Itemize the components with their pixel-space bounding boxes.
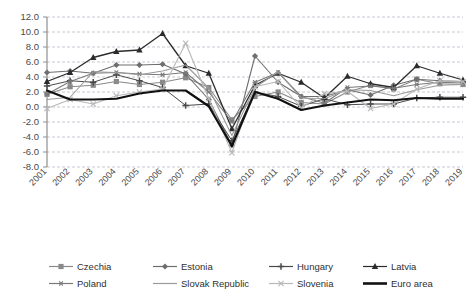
data-point-marker [414, 62, 420, 68]
x-axis-tick-label: 2007 [166, 166, 187, 187]
x-axis-tick-label: 2002 [50, 166, 71, 187]
data-point-marker [136, 62, 142, 68]
x-axis-tick-label: 2009 [212, 166, 233, 187]
x-axis-tick-label: 2005 [120, 166, 141, 187]
x-axis-tick-label: 2008 [189, 166, 210, 187]
y-axis-tick-label: 6.0 [26, 56, 39, 67]
legend-item-euro-area[interactable]: Euro area [362, 278, 466, 289]
y-axis-tick-label: 4.0 [26, 71, 39, 82]
chart-legend: CzechiaEstoniaHungaryLatviaPolandSlovak … [48, 258, 466, 292]
x-axis-tick-labels: 2001200220032004200520062007200820092010… [27, 166, 464, 187]
legend-x-icon [268, 278, 294, 289]
legend-item-slovenia[interactable]: Slovenia [268, 278, 362, 289]
x-axis-tick-label: 2011 [259, 166, 280, 187]
legend-item-czechia[interactable]: Czechia [48, 261, 152, 272]
legend-item-slovak-republic[interactable]: Slovak Republic [152, 278, 268, 289]
legend-item-poland[interactable]: Poland [48, 278, 152, 289]
legend-label: Hungary [297, 261, 333, 272]
data-point-marker [159, 30, 165, 36]
legend-none-icon [152, 278, 178, 289]
data-series-group [44, 30, 466, 155]
data-point-marker [344, 73, 350, 79]
legend-star-icon [48, 278, 74, 289]
data-point-marker [183, 41, 188, 46]
x-axis-tick-label: 2006 [143, 166, 164, 187]
legend-plus-icon [268, 261, 294, 272]
data-point-marker [229, 150, 234, 155]
data-point-marker [414, 82, 419, 86]
legend-item-latvia[interactable]: Latvia [362, 261, 466, 272]
x-axis-tick-label: 2013 [305, 166, 326, 187]
line-chart: -8.0-6.0-4.0-2.00.02.04.06.08.010.012.0 … [0, 0, 472, 302]
series-line [47, 34, 463, 129]
legend-item-estonia[interactable]: Estonia [152, 261, 268, 272]
data-point-marker [44, 69, 50, 75]
data-point-marker [367, 92, 373, 98]
legend-label: Slovak Republic [181, 278, 249, 289]
data-point-marker [114, 79, 119, 84]
data-point-marker [160, 73, 165, 77]
legend-label: Poland [77, 278, 107, 289]
legend-label: Czechia [77, 261, 111, 272]
y-axis-tick-label: -6.0 [23, 146, 39, 157]
data-point-marker [67, 69, 73, 75]
x-axis-tick-label: 2012 [281, 166, 302, 187]
chart-plot-area: -8.0-6.0-4.0-2.00.02.04.06.08.010.012.0 … [0, 0, 472, 302]
y-axis-tick-label: 0.0 [26, 101, 39, 112]
y-axis-tick-label: 2.0 [26, 86, 39, 97]
x-axis-tick-label: 2018 [420, 166, 441, 187]
data-point-marker [68, 84, 73, 89]
legend-label: Slovenia [297, 278, 333, 289]
legend-item-hungary[interactable]: Hungary [268, 261, 362, 272]
legend-label: Latvia [391, 261, 416, 272]
data-point-marker [113, 62, 119, 68]
x-axis-tick-label: 2010 [235, 166, 256, 187]
y-axis-tick-labels: -8.0-6.0-4.0-2.00.02.04.06.08.010.012.0 [21, 11, 40, 172]
y-axis-tick-label: 12.0 [21, 11, 40, 22]
y-axis-tick-label: 8.0 [26, 41, 39, 52]
legend-label: Estonia [181, 261, 213, 272]
x-axis-tick-label: 2003 [73, 166, 94, 187]
legend-label: Euro area [391, 278, 433, 289]
data-point-marker [160, 80, 165, 85]
legend-none-icon [362, 278, 388, 289]
series-latvia [44, 30, 466, 131]
y-axis-tick-label: 10.0 [21, 26, 40, 37]
legend-diamond-icon [152, 261, 178, 272]
series-estonia [44, 53, 466, 148]
x-axis-tick-label: 2017 [397, 166, 418, 187]
x-axis-tick-label: 2019 [443, 166, 464, 187]
legend-square-icon [48, 261, 74, 272]
x-axis-tick-label: 2016 [374, 166, 395, 187]
x-axis-tick-label: 2015 [351, 166, 372, 187]
legend-triangle-icon [362, 261, 388, 272]
y-axis-tick-label: -2.0 [23, 116, 39, 127]
y-axis-tick-label: -4.0 [23, 131, 39, 142]
x-axis-tick-label: 2014 [328, 166, 349, 187]
x-axis-tick-label: 2004 [97, 166, 118, 187]
